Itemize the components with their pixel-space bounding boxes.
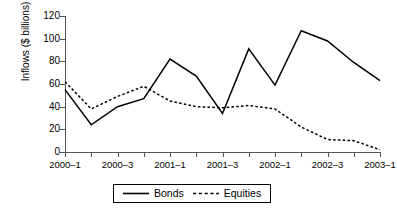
legend-label-equities: Equities	[224, 187, 261, 199]
legend-swatch-solid-line-icon	[123, 190, 149, 197]
legend-item-bonds: Bonds	[123, 187, 184, 199]
legend-item-equities: Equities	[193, 187, 261, 199]
chart-plot-lines	[0, 0, 397, 212]
chart-legend: Bonds Equities	[113, 184, 271, 203]
series-line-equities	[65, 82, 380, 150]
series-line-bonds	[65, 31, 380, 125]
chart-figure: Inflows ($ billions) 020406080100120 200…	[0, 0, 397, 212]
legend-swatch-dashed-line-icon	[193, 190, 219, 197]
legend-label-bonds: Bonds	[154, 187, 184, 199]
